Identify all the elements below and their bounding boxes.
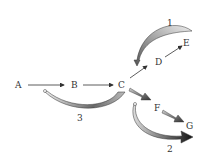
- node-c: C: [118, 80, 125, 90]
- curve-label-3: 3: [77, 113, 83, 123]
- node-e: E: [183, 38, 190, 48]
- node-g: G: [186, 121, 193, 131]
- curve-label-2: 2: [167, 144, 173, 154]
- node-a: A: [14, 80, 22, 90]
- edge-d-e: [165, 46, 182, 57]
- edge-c-d: [130, 66, 147, 78]
- edge-c-f: [129, 88, 151, 100]
- curved-arrow-3: [44, 90, 126, 109]
- edge-f-g: [162, 110, 184, 122]
- pathway-diagram: A B C D E F G 1 2 3: [0, 0, 205, 164]
- node-f: F: [154, 103, 160, 113]
- node-d: D: [155, 57, 162, 67]
- curve-label-1: 1: [167, 18, 173, 28]
- curved-arrow-2: [133, 103, 193, 144]
- node-b: B: [71, 80, 78, 90]
